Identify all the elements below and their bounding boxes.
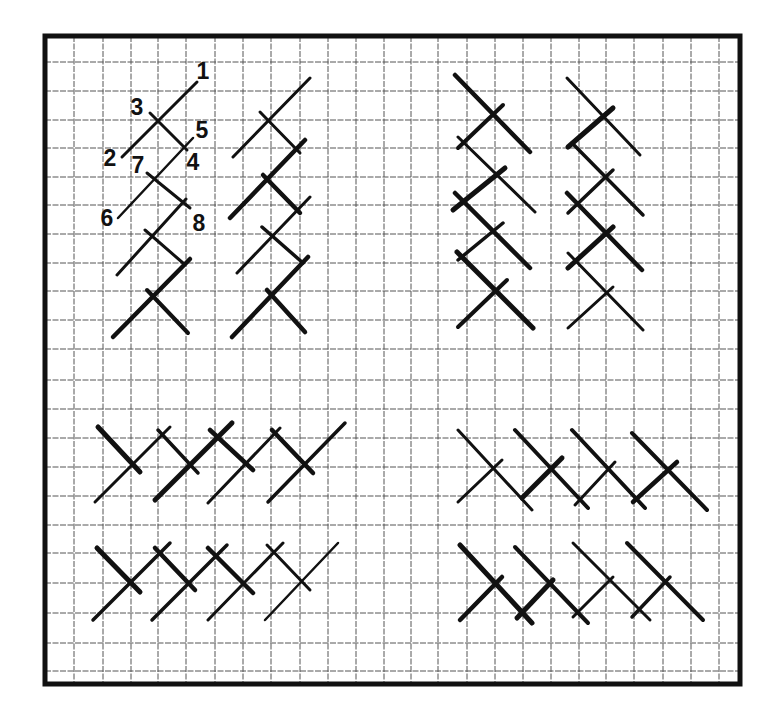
- background: [0, 0, 771, 722]
- step-label-6: 6: [101, 205, 114, 231]
- step-label-7: 7: [132, 152, 145, 178]
- stitch-diagram: 13527468 Herringbone stitch grid diagram: [0, 0, 771, 722]
- step-label-1: 1: [197, 58, 210, 84]
- step-label-4: 4: [187, 149, 200, 175]
- step-label-8: 8: [193, 210, 206, 236]
- step-label-5: 5: [196, 117, 209, 143]
- step-label-3: 3: [131, 94, 144, 120]
- diagram-canvas: 13527468: [0, 0, 771, 722]
- step-label-2: 2: [104, 145, 117, 171]
